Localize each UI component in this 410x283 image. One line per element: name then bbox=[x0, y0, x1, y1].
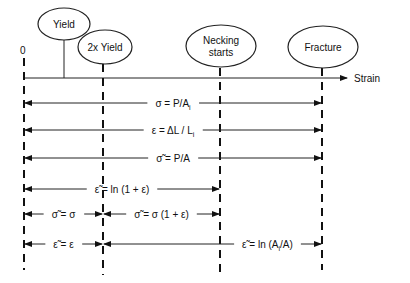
fracture-label: Fracture bbox=[304, 42, 342, 53]
relation-true-stress-small: σ̃ = σ bbox=[25, 209, 102, 220]
relation-eng-stress: σ = P/Ai bbox=[25, 98, 321, 111]
event-two-x-yield: 2x Yield bbox=[78, 30, 132, 64]
two-x-yield-label: 2x Yield bbox=[87, 42, 122, 53]
relation-true-strain-small: ε̃ = ε bbox=[25, 239, 102, 250]
strain-axis-label: Strain bbox=[354, 73, 380, 84]
relation-rows: σ = P/Aiε = ΔL / Liσ̃ = P/Aε̃ = ln (1 + … bbox=[25, 98, 321, 252]
relation-label: σ̃ = σ bbox=[52, 209, 77, 220]
event-yield: Yield bbox=[38, 8, 90, 40]
yield-label: Yield bbox=[53, 19, 75, 30]
relation-label: σ̃ = P/A bbox=[156, 153, 190, 164]
relation-label: ε = ΔL / Li bbox=[152, 125, 195, 138]
event-fracture: Fracture bbox=[288, 26, 358, 68]
relation-label: ε̃ = ln (Ai/A) bbox=[242, 239, 293, 252]
relation-true-strain-area: ε̃ = ln (Ai/A) bbox=[104, 239, 321, 252]
stress-strain-regime-diagram: 0 Strain Yield 2x Yield Necking starts F… bbox=[0, 0, 410, 283]
necking-label-line-1: Necking bbox=[203, 35, 239, 46]
relation-true-stress: σ̃ = P/A bbox=[25, 153, 321, 164]
origin-label: 0 bbox=[20, 45, 26, 56]
relation-label: σ̃ = σ (1 + ε) bbox=[134, 209, 189, 220]
relation-true-strain-ln: ε̃ = ln (1 + ε) bbox=[25, 184, 219, 195]
necking-ellipse bbox=[186, 25, 256, 67]
relation-label: ε̃ = ln (1 + ε) bbox=[95, 184, 150, 195]
relation-true-stress-mid: σ̃ = σ (1 + ε) bbox=[104, 209, 219, 220]
relation-label: ε̃ = ε bbox=[53, 239, 74, 250]
relation-label: σ = P/Ai bbox=[155, 98, 191, 111]
relation-eng-strain: ε = ΔL / Li bbox=[25, 125, 321, 138]
necking-label-line-2: starts bbox=[209, 47, 233, 58]
event-necking: Necking starts bbox=[186, 25, 256, 67]
